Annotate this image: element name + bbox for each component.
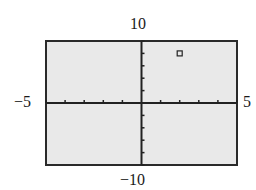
- data-point-marker: [177, 51, 182, 56]
- chart-canvas: [0, 0, 256, 190]
